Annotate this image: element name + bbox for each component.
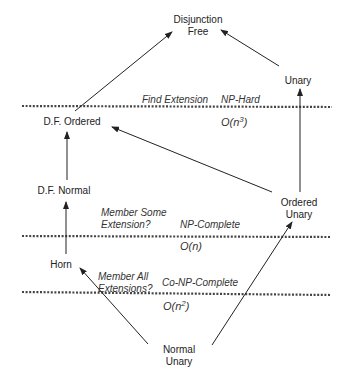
node-disjunction-free: Disjunction Free	[168, 14, 228, 38]
problem-find-extension: Find Extension	[142, 94, 208, 106]
node-label: D.F. Ordered	[43, 116, 100, 127]
node-df-normal: D.F. Normal	[34, 185, 94, 197]
node-label-line2: Unary	[158, 356, 200, 368]
hardness-np-complete: NP-Complete	[180, 219, 240, 231]
complexity-o-n2: O(n2)	[163, 298, 189, 312]
node-df-ordered: D.F. Ordered	[40, 116, 104, 128]
complexity-o-n3: O(n3)	[221, 114, 247, 128]
node-unary: Unary	[280, 75, 316, 87]
boundary-line-np-hard	[22, 106, 332, 107]
node-label-line1: Disjunction	[168, 14, 228, 26]
complexity-diagram: Disjunction Free Unary D.F. Ordered D.F.…	[0, 0, 347, 383]
node-label-line1: Ordered	[274, 197, 324, 209]
node-label: D.F. Normal	[38, 185, 91, 196]
complexity-base: O(n	[221, 116, 239, 128]
node-normal-unary: Normal Unary	[158, 344, 200, 368]
complexity-end: )	[186, 300, 190, 312]
edge-unary-to-disjfree	[221, 30, 279, 66]
complexity-end: )	[244, 116, 248, 128]
node-label-line2: Unary	[274, 209, 324, 221]
node-label: Unary	[285, 75, 312, 86]
problem-member-all-extensions: Member All Extensions?	[98, 271, 152, 295]
problem-line1: Member All	[98, 271, 152, 283]
problem-line2: Extension?	[101, 219, 167, 231]
boundary-line-co-np-complete	[22, 292, 331, 295]
complexity-o-n: O(n)	[180, 240, 202, 252]
node-ordered-unary: Ordered Unary	[274, 197, 324, 221]
boundary-line-np-complete	[22, 236, 330, 237]
problem-member-some-extension: Member Some Extension?	[101, 207, 167, 231]
edge-orderedunary-to-dfordered	[112, 127, 272, 192]
problem-line2: Extensions?	[98, 283, 152, 295]
node-label: Horn	[50, 259, 72, 270]
node-label-line1: Normal	[158, 344, 200, 356]
hardness-co-np-complete: Co-NP-Complete	[162, 277, 238, 289]
complexity-base: O(n	[163, 300, 181, 312]
node-horn: Horn	[46, 259, 76, 271]
problem-line1: Member Some	[101, 207, 167, 219]
hardness-np-hard: NP-Hard	[221, 94, 260, 106]
node-label-line2: Free	[168, 26, 228, 38]
